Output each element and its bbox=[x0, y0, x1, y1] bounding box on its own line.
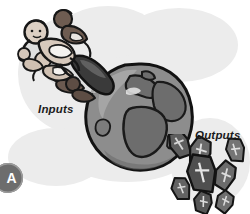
babies-sliding-chute-icon bbox=[16, 2, 126, 110]
panel-badge: A bbox=[0, 163, 23, 193]
figure-panel: Inputs Outputs A bbox=[0, 0, 250, 214]
outputs-label: Outputs bbox=[195, 129, 240, 141]
inputs-label: Inputs bbox=[38, 103, 74, 115]
coffins-icon bbox=[160, 134, 250, 214]
panel-badge-letter: A bbox=[0, 170, 17, 186]
